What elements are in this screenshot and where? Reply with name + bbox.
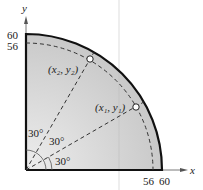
y-tick-56: 56: [7, 40, 19, 52]
x-tick-56: 56: [143, 175, 155, 187]
point-1-label: (x₁, y₁): [95, 101, 126, 114]
x-axis-label: x: [189, 164, 195, 176]
y-axis-label: y: [21, 2, 27, 14]
x-tick-60: 60: [159, 175, 171, 187]
x-axis-arrow-icon: [180, 168, 188, 172]
point-1: [133, 104, 139, 110]
angle-label-top: 30°: [28, 127, 43, 139]
y-axis-arrow-icon: [24, 16, 28, 24]
point-2-label: (x₂, y₂): [48, 63, 79, 76]
angle-label-bottom: 30°: [55, 155, 70, 167]
angle-label-mid: 30°: [49, 135, 64, 147]
point-2: [87, 56, 93, 62]
quarter-circle-diagram: y x 60 56 56 60 (x₂, y₂) (x₁, y₁) 30° 30…: [0, 0, 203, 190]
quarter-disk: [26, 34, 162, 170]
